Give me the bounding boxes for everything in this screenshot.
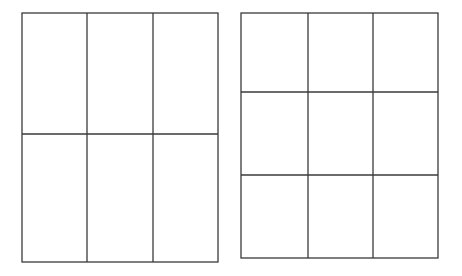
grid-3-columns-2-rows [22,13,218,262]
grid-border [241,13,438,258]
diagram-canvas [0,0,462,276]
grid-border [22,13,218,262]
grid-3-columns-3-rows [241,13,438,258]
